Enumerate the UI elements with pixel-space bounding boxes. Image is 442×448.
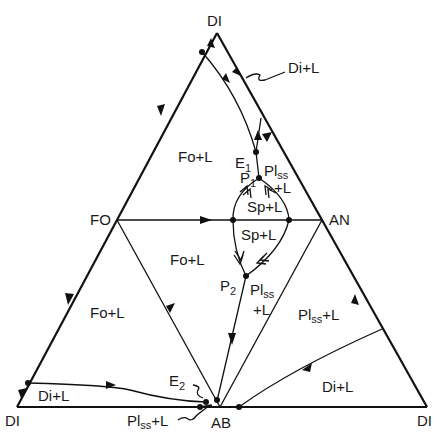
field-fo-l-middle: Fo+L — [170, 251, 205, 268]
vertex-fo: FO — [90, 211, 111, 228]
vertex-an: AN — [329, 211, 350, 228]
field-fo-l-left: Fo+L — [90, 304, 125, 321]
vertex-di-bottom-left: DI — [5, 412, 20, 429]
vertex-ab: AB — [211, 414, 231, 431]
field-plss-l-bottom: Plss+L — [127, 412, 168, 431]
field-sp-l-upper: Sp+L — [247, 198, 282, 215]
point-e2: E2 — [169, 372, 185, 392]
labels: DI DI DI FO AN AB E1 E2 P1 P2 Di+L Fo+L … — [5, 12, 432, 431]
field-di-l-bottom-right: Di+L — [322, 378, 353, 395]
join-lines — [117, 220, 322, 407]
arrows — [18, 38, 359, 398]
field-sp-l-lower: Sp+L — [241, 226, 276, 243]
vertex-di-top: DI — [207, 12, 222, 29]
field-plss-l-middle: Plss — [250, 281, 275, 300]
point-p2: P2 — [220, 277, 236, 297]
field-plss-l-upper-line2: +L — [274, 179, 291, 196]
phase-diagram: DI DI DI FO AN AB E1 E2 P1 P2 Di+L Fo+L … — [0, 0, 442, 448]
cotectic-curves — [28, 52, 382, 407]
field-plss-l-right: Plss+L — [298, 306, 339, 325]
field-di-l-top: Di+L — [288, 59, 319, 76]
field-fo-l-upper: Fo+L — [178, 148, 213, 165]
field-plss-l-middle-line2: +L — [253, 301, 270, 318]
field-di-l-bottom-left: Di+L — [38, 387, 69, 404]
vertex-di-bottom-right: DI — [417, 412, 432, 429]
